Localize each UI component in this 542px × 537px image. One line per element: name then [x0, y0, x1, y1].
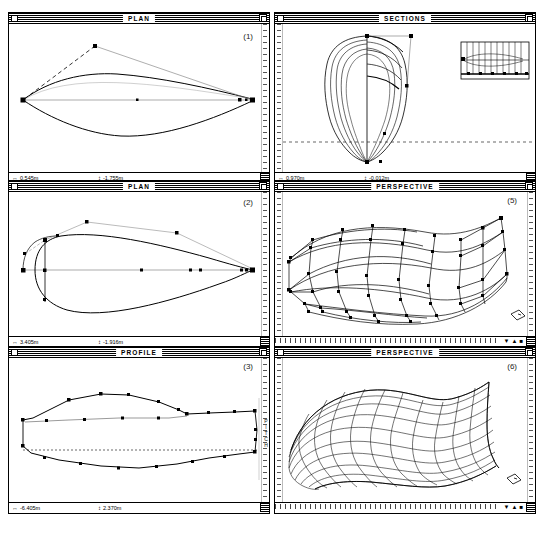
rotate-y-icon[interactable]: ▼: [503, 339, 509, 344]
axis-indicator-icon: [507, 474, 521, 484]
zoom-box-icon[interactable]: [525, 348, 533, 356]
close-box-icon[interactable]: [11, 349, 18, 356]
plan-drawing-2: [9, 192, 269, 336]
zoom-box-icon[interactable]: [259, 14, 267, 22]
y-coordinate-value: -1.916m: [103, 339, 123, 345]
x-coordinate-readout: ↔ -6.405m: [9, 505, 95, 511]
plan-drawing-1: [9, 24, 269, 172]
close-box-icon[interactable]: [11, 15, 18, 22]
inset-station-plan: [461, 42, 529, 79]
window-profile-3[interactable]: PROFILE PITCH (3): [8, 346, 270, 514]
canvas-sections-4[interactable]: (4): [275, 24, 535, 172]
titlebar-plan-1[interactable]: PLAN: [9, 13, 269, 24]
resize-grip-icon[interactable]: [260, 503, 269, 512]
horizontal-ruler[interactable]: [275, 337, 500, 346]
zoom-box-icon[interactable]: [259, 348, 267, 356]
titlebar-perspective-5[interactable]: PERSPECTIVE: [275, 181, 535, 192]
close-box-icon[interactable]: [277, 349, 284, 356]
x-coordinate-value: -6.405m: [20, 505, 40, 511]
horizontal-ruler[interactable]: [275, 503, 500, 512]
y-axis-icon: ↕: [98, 505, 101, 511]
x-axis-icon: ↔: [12, 339, 18, 345]
x-axis-icon: ↔: [12, 505, 18, 511]
resize-grip-icon[interactable]: [526, 337, 535, 346]
window-title: PERSPECTIVE: [371, 182, 439, 191]
perspective-toolbar-5[interactable]: ▼ ▲ ■: [275, 336, 535, 346]
resize-grip-icon[interactable]: [260, 337, 269, 346]
window-title: PROFILE: [116, 348, 162, 357]
axis-indicator-icon: [511, 310, 525, 320]
canvas-plan-1[interactable]: (1): [9, 24, 269, 172]
x-coordinate-readout: ↔ 3.405m: [9, 339, 95, 345]
x-coordinate-value: 3.405m: [20, 339, 38, 345]
titlebar-profile-3[interactable]: PROFILE: [9, 347, 269, 358]
close-box-icon[interactable]: [277, 15, 284, 22]
titlebar-perspective-6[interactable]: PERSPECTIVE: [275, 347, 535, 358]
titlebar-sections-4[interactable]: SECTIONS: [275, 13, 535, 24]
window-plan-2[interactable]: PLAN (2): [8, 180, 270, 348]
rotate-x-icon[interactable]: ▲: [511, 505, 517, 510]
canvas-perspective-6[interactable]: (6): [275, 358, 535, 502]
resize-grip-icon[interactable]: [526, 503, 535, 512]
y-coordinate-readout: ↕ -1.916m: [95, 339, 185, 345]
titlebar-plan-2[interactable]: PLAN: [9, 181, 269, 192]
window-perspective-6[interactable]: PERSPECTIVE (6): [274, 346, 536, 514]
canvas-plan-2[interactable]: (2): [9, 192, 269, 336]
zoom-box-icon[interactable]: [525, 182, 533, 190]
perspective-wireframe: [275, 192, 535, 336]
zoom-box-icon[interactable]: [259, 182, 267, 190]
window-sections-4[interactable]: SECTIONS (4): [274, 12, 536, 184]
rotate-z-icon[interactable]: ■: [519, 339, 523, 344]
window-title: SECTIONS: [379, 14, 431, 23]
statusbar-profile-3: ↔ -6.405m ↕ 2.370m: [9, 502, 269, 512]
profile-drawing: [9, 358, 269, 502]
view-axis-icons[interactable]: ▼ ▲ ■: [500, 339, 526, 344]
window-title: PERSPECTIVE: [371, 348, 439, 357]
rotate-y-icon[interactable]: ▼: [503, 505, 509, 510]
perspective-surface-mesh: [275, 358, 535, 502]
application-screen: PLAN (1): [0, 0, 542, 537]
window-plan-1[interactable]: PLAN (1): [8, 12, 270, 184]
rotate-z-icon[interactable]: ■: [519, 505, 523, 510]
perspective-toolbar-6[interactable]: ▼ ▲ ■: [275, 502, 535, 512]
zoom-box-icon[interactable]: [525, 14, 533, 22]
canvas-profile-3[interactable]: PITCH (3): [9, 358, 269, 502]
canvas-perspective-5[interactable]: (5): [275, 192, 535, 336]
statusbar-plan-2: ↔ 3.405m ↕ -1.916m: [9, 336, 269, 346]
y-coordinate-value: 2.370m: [103, 505, 121, 511]
view-axis-icons[interactable]: ▼ ▲ ■: [500, 505, 526, 510]
window-perspective-5[interactable]: PERSPECTIVE (5): [274, 180, 536, 348]
window-title: PLAN: [123, 182, 155, 191]
rotate-x-icon[interactable]: ▲: [511, 339, 517, 344]
window-title: PLAN: [123, 14, 155, 23]
sections-drawing: [275, 24, 535, 172]
y-coordinate-readout: ↕ 2.370m: [95, 505, 185, 511]
close-box-icon[interactable]: [277, 183, 284, 190]
close-box-icon[interactable]: [11, 183, 18, 190]
y-axis-icon: ↕: [98, 339, 101, 345]
